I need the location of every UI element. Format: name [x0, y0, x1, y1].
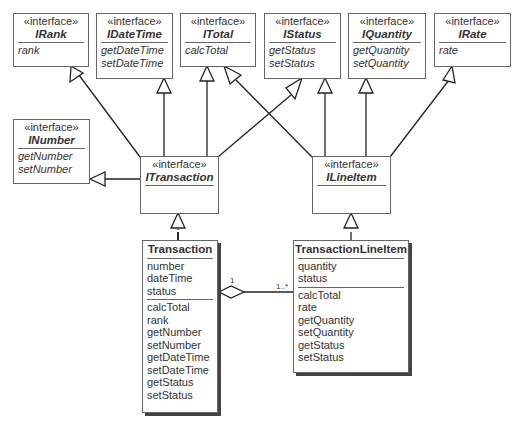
generalization-ilineitem-irate [390, 80, 449, 157]
arrowhead-itransaction [171, 213, 185, 228]
operation: calcTotal [298, 289, 404, 302]
interface-name: ILineItem [313, 171, 390, 184]
arrowhead-irate [443, 66, 455, 83]
arrowhead-irank [70, 66, 83, 82]
divider [298, 287, 404, 288]
arrowhead-itotal-left [200, 66, 214, 81]
aggregation-diamond [219, 286, 244, 298]
member-list: rank [14, 44, 88, 57]
divider [185, 42, 251, 43]
operation: setQuantity [298, 326, 404, 339]
member: getNumber [18, 150, 85, 163]
operation: getQuantity [298, 314, 404, 327]
attribute: status [147, 285, 213, 298]
member: rank [18, 44, 84, 57]
operation: getStatus [298, 339, 404, 352]
divider [145, 185, 214, 186]
operation: calcTotal [147, 301, 213, 314]
attribute: dateTime [147, 272, 213, 285]
multiplicity-part: 1..* [276, 282, 288, 291]
member: setStatus [269, 57, 336, 70]
interface-name: IDateTime [97, 28, 172, 41]
member: getDateTime [101, 44, 168, 57]
member: getStatus [269, 44, 336, 57]
member: setQuantity [353, 57, 421, 70]
member-list: rate [435, 44, 510, 57]
member: setNumber [18, 163, 85, 176]
interface-ilineitem: «interface» ILineItem [312, 156, 391, 214]
divider [298, 258, 404, 259]
arrowhead-iquantity [359, 78, 373, 93]
operation: setStatus [147, 389, 213, 402]
operation: setStatus [298, 351, 404, 364]
stereotype-label: «interface» [265, 14, 340, 28]
divider [101, 42, 168, 43]
operation: getStatus [147, 376, 213, 389]
member-list: getQuantity setQuantity [349, 44, 425, 69]
class-transaction: Transaction number dateTime status calcT… [142, 240, 218, 413]
arrowhead-istatus-right [318, 78, 332, 93]
interface-itotal: «interface» ITotal calcTotal [180, 13, 256, 67]
member-list: getNumber setNumber [14, 150, 89, 175]
interface-name: IStatus [265, 28, 340, 41]
member-list: getStatus setStatus [265, 44, 340, 69]
stereotype-label: «interface» [313, 157, 390, 171]
arrowhead-idatetime [157, 78, 171, 93]
interface-inumber: «interface» INumber getNumber setNumber [13, 119, 90, 184]
member: setDateTime [101, 57, 168, 70]
stereotype-label: «interface» [14, 14, 88, 28]
operation: setNumber [147, 339, 213, 352]
interface-idatetime: «interface» IDateTime getDateTime setDat… [96, 13, 173, 79]
attribute-list: number dateTime status [143, 260, 217, 298]
stereotype-label: «interface» [97, 14, 172, 28]
interface-iquantity: «interface» IQuantity getQuantity setQua… [348, 13, 426, 79]
class-transactionlineitem: TransactionLineItem quantity status calc… [293, 240, 409, 373]
attribute-list: quantity status [294, 260, 408, 285]
interface-istatus: «interface» IStatus getStatus setStatus [264, 13, 341, 79]
arrowhead-inumber [90, 172, 105, 186]
member-list: calcTotal [181, 44, 255, 57]
member: rate [439, 44, 506, 57]
stereotype-label: «interface» [181, 14, 255, 28]
divider [147, 258, 213, 259]
member-list: getDateTime setDateTime [97, 44, 172, 69]
attribute: number [147, 260, 213, 273]
generalization-itransaction-istatus [218, 95, 291, 157]
divider [269, 42, 336, 43]
divider [18, 42, 84, 43]
stereotype-label: «interface» [141, 157, 218, 171]
member: calcTotal [185, 44, 251, 57]
divider [439, 42, 506, 43]
arrowhead-itotal-right [224, 66, 241, 84]
divider [18, 148, 85, 149]
operation-list: calcTotal rate getQuantity setQuantity g… [294, 289, 408, 364]
attribute: quantity [298, 260, 404, 273]
interface-name: ITransaction [141, 171, 218, 184]
operation-list: calcTotal rank getNumber setNumber getDa… [143, 301, 217, 401]
divider [317, 185, 386, 186]
stereotype-label: «interface» [349, 14, 425, 28]
arrowhead-istatus-left [286, 78, 302, 99]
class-name: Transaction [143, 241, 217, 256]
multiplicity-whole: 1 [230, 276, 234, 285]
attribute: status [298, 272, 404, 285]
operation: getNumber [147, 326, 213, 339]
operation: getDateTime [147, 351, 213, 364]
generalization-ilineitem-itotal [236, 80, 312, 157]
interface-itransaction: «interface» ITransaction [140, 156, 219, 214]
member: getQuantity [353, 44, 421, 57]
stereotype-label: «interface» [435, 14, 510, 28]
operation: rank [147, 314, 213, 327]
interface-name: IRate [435, 28, 510, 41]
interface-irate: «interface» IRate rate [434, 13, 511, 67]
interface-name: INumber [14, 134, 89, 147]
interface-name: IQuantity [349, 28, 425, 41]
operation: rate [298, 301, 404, 314]
divider [147, 299, 213, 300]
arrowhead-ilineitem [344, 213, 358, 228]
interface-name: ITotal [181, 28, 255, 41]
stereotype-label: «interface» [14, 120, 89, 134]
interface-name: IRank [14, 28, 88, 41]
class-name: TransactionLineItem [294, 241, 408, 256]
divider [353, 42, 421, 43]
